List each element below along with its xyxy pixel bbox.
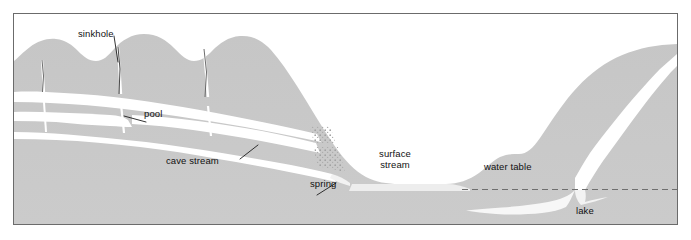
- cave-passage-mid: [14, 112, 56, 122]
- label-cave-stream: cave stream: [166, 155, 219, 166]
- label-water-table: water table: [484, 161, 532, 172]
- diagram-frame: sinkhole pool cave stream spring surface…: [13, 13, 678, 225]
- label-surface-stream-line2: stream: [366, 159, 424, 170]
- label-sinkhole: sinkhole: [78, 28, 114, 39]
- label-lake: lake: [576, 205, 594, 216]
- surface-stream-water: [349, 184, 470, 191]
- breccia-upper: [310, 126, 336, 144]
- surface-water: [349, 184, 470, 191]
- label-spring: spring: [310, 178, 336, 189]
- label-surface-stream-line1: surface: [366, 148, 424, 159]
- karst-cross-section-figure: sinkhole pool cave stream spring surface…: [0, 0, 691, 240]
- label-pool: pool: [144, 108, 162, 119]
- cross-section-illustration: [14, 14, 677, 224]
